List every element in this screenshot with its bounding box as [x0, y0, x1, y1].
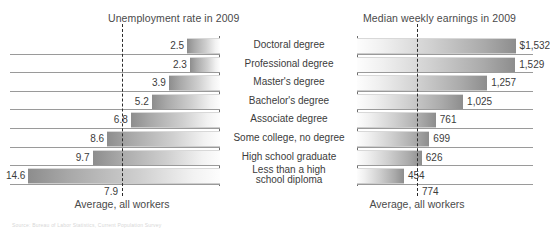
earnings-bar — [357, 57, 515, 73]
unemployment-value-label: 2.3 — [173, 57, 187, 72]
unemployment-bar — [190, 57, 220, 73]
category-label: Less than a high school diploma — [221, 166, 357, 185]
unemployment-bar — [93, 150, 220, 166]
source-footnote: Source: Bureau of Labor Statistics, Curr… — [12, 222, 162, 228]
category-labels: Doctoral degreeProfessional degreeMaster… — [221, 36, 357, 186]
unemployment-value-label: 9.7 — [76, 150, 90, 165]
row-separator — [357, 184, 533, 185]
bar-row: 2.5 — [10, 36, 220, 55]
earnings-average-caption: Average, all workers — [357, 198, 477, 210]
earnings-bar — [357, 94, 463, 110]
unemployment-value-label: 6.8 — [114, 112, 128, 127]
bar-row: 699 — [357, 129, 533, 148]
earnings-value-label: 699 — [433, 131, 450, 146]
unemployment-value-label: 8.6 — [90, 131, 104, 146]
bar-row: 8.6 — [10, 129, 220, 148]
earnings-bar — [357, 38, 516, 54]
earnings-average-value: 774 — [422, 186, 439, 197]
category-label: Some college, no degree — [221, 129, 357, 148]
unemployment-value-label: 14.6 — [6, 168, 25, 183]
category-label: Master's degree — [221, 73, 357, 92]
category-label: Professional degree — [221, 55, 357, 74]
unemployment-bar — [107, 131, 220, 147]
bar-row: 761 — [357, 110, 533, 129]
bar-row: 2.3 — [10, 55, 220, 74]
earnings-bars: $1,5321,5291,2571,025761699626454 — [357, 36, 533, 186]
unemployment-bars: 2.52.33.95.26.88.69.714.6 — [10, 36, 220, 186]
bar-row: 626 — [357, 148, 533, 167]
earnings-panel-title: Median weekly earnings in 2009 — [363, 12, 516, 24]
unemployment-bar — [28, 168, 220, 184]
bar-row: 3.9 — [10, 73, 220, 92]
unemployment-bar — [152, 94, 220, 110]
earnings-average-line — [417, 24, 418, 196]
unemployment-average-value: 7.9 — [92, 186, 118, 197]
unemployment-average-caption: Average, all workers — [62, 198, 182, 210]
category-label: Doctoral degree — [221, 36, 357, 55]
earnings-value-label: $1,532 — [520, 38, 550, 53]
unemployment-value-label: 2.5 — [170, 38, 184, 53]
bar-row: 14.6 — [10, 166, 220, 185]
unemployment-value-label: 5.2 — [135, 94, 149, 109]
earnings-value-label: 761 — [440, 112, 457, 127]
bar-row: 1,257 — [357, 73, 533, 92]
earnings-value-label: 626 — [426, 150, 443, 165]
earnings-value-label: 1,257 — [491, 75, 516, 90]
unemployment-bar — [169, 75, 220, 91]
unemployment-average-line — [122, 24, 123, 196]
bar-row: 1,529 — [357, 55, 533, 74]
row-separator — [10, 184, 220, 185]
bar-row: 454 — [357, 166, 533, 185]
earnings-value-label: 1,025 — [467, 94, 492, 109]
unemployment-bar — [131, 112, 220, 128]
category-label: Associate degree — [221, 110, 357, 129]
unemployment-bar — [187, 38, 220, 54]
unemployment-panel-title: Unemployment rate in 2009 — [108, 12, 240, 24]
bar-row: 1,025 — [357, 92, 533, 111]
category-label: Bachelor's degree — [221, 92, 357, 111]
bar-row: 5.2 — [10, 92, 220, 111]
bar-row: $1,532 — [357, 36, 533, 55]
bar-row: 6.8 — [10, 110, 220, 129]
earnings-bar — [357, 112, 436, 128]
earnings-bar — [357, 150, 422, 166]
earnings-bar — [357, 131, 429, 147]
unemployment-value-label: 3.9 — [152, 75, 166, 90]
earnings-bar — [357, 75, 487, 91]
earnings-bar — [357, 168, 404, 184]
bar-row: 9.7 — [10, 148, 220, 167]
earnings-value-label: 1,529 — [519, 57, 544, 72]
